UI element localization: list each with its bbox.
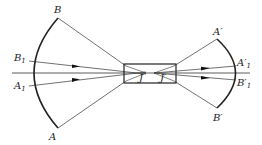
label-A1: A1 <box>13 80 26 93</box>
label-B1prime: B′1 <box>236 77 251 90</box>
label-A1prime: A′1 <box>236 57 251 70</box>
label-Jprime: J′ <box>158 72 167 83</box>
right-arc-surface <box>217 39 236 108</box>
label-Aprime: A′ <box>212 26 223 37</box>
ray-A-to-J <box>58 81 126 128</box>
label-B: B <box>53 4 61 15</box>
label-J: J <box>137 72 144 83</box>
optical-fiber-diagram: B B1 A1 A J J′ A′ A′1 B′1 B′ <box>0 0 262 145</box>
label-B1: B1 <box>13 52 26 65</box>
arrow-icon <box>201 76 210 80</box>
ray-to-A1prime <box>154 66 236 73</box>
ray-Jprime-to-Bprime <box>174 81 217 108</box>
ray-A1-to-J <box>29 72 146 86</box>
ray-B1-to-J <box>29 61 146 74</box>
label-Bprime: B′ <box>212 112 223 123</box>
ray-B-to-J <box>58 18 126 66</box>
ray-Jprime-to-Aprime <box>174 39 217 66</box>
ray-to-B1prime <box>154 73 236 80</box>
arrow-icon <box>72 65 80 69</box>
label-A: A <box>48 131 56 142</box>
